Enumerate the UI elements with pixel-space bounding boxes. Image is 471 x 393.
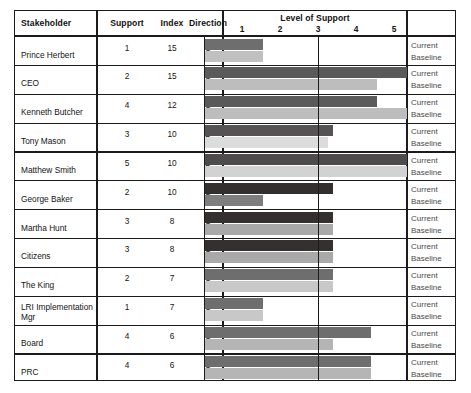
legend-label-current: Current [411, 214, 438, 223]
column-header-stakeholder: Stakeholder [21, 18, 71, 28]
cell-support: 5 [101, 158, 153, 168]
stakeholder-table: Stakeholder Support Index Direction Leve… [14, 10, 456, 381]
legend-label-current: Current [411, 329, 438, 338]
chart-header-title: Level of Support [224, 13, 406, 23]
cell-index: 15 [153, 43, 191, 53]
row-separator [15, 296, 455, 297]
legend-label-baseline: Baseline [411, 53, 442, 62]
cell-support: 2 [101, 273, 153, 283]
chart-axis-origin-line [204, 36, 205, 380]
legend-label-current: Current [411, 127, 438, 136]
row-separator [15, 65, 455, 66]
legend-label-current: Current [411, 242, 438, 251]
bar-current [204, 298, 263, 309]
bar-baseline [204, 339, 333, 350]
column-header-direction: Direction [187, 18, 229, 28]
legend-label-current: Current [411, 41, 438, 50]
legend-label-current: Current [411, 185, 438, 194]
cell-support: 2 [101, 71, 153, 81]
bar-current [204, 154, 407, 165]
cell-index: 10 [153, 158, 191, 168]
bar-current [204, 327, 371, 338]
stakeholder-name: Board [21, 339, 43, 349]
axis-tick-4: 4 [349, 24, 363, 34]
header-bottom-rule [15, 35, 455, 37]
axis-tick-3: 3 [311, 24, 325, 34]
stakeholder-name: CEO [21, 79, 39, 89]
stakeholder-name: Prince Herbert [21, 51, 75, 61]
row-separator [15, 238, 455, 239]
row-separator [15, 209, 455, 210]
bar-baseline [204, 108, 407, 119]
bar-current [204, 212, 333, 223]
chart-gridline-3 [318, 36, 319, 380]
legend-label-current: Current [411, 69, 438, 78]
bar-baseline [204, 252, 333, 263]
cell-index: 15 [153, 71, 191, 81]
cell-index: 8 [153, 244, 191, 254]
stakeholder-name: Citizens [21, 252, 51, 262]
row-separator [15, 180, 455, 181]
stakeholder-name: LRI Implementation Mgr [21, 303, 93, 322]
cell-index: 6 [153, 331, 191, 341]
cell-index: 7 [153, 273, 191, 283]
bar-baseline [204, 310, 263, 321]
cell-support: 3 [101, 129, 153, 139]
cell-support: 2 [101, 187, 153, 197]
legend-label-current: Current [411, 98, 438, 107]
stakeholder-name: George Baker [21, 195, 73, 205]
bar-current [204, 67, 407, 78]
stakeholder-name: Tony Mason [21, 137, 66, 147]
cell-support: 4 [101, 331, 153, 341]
bar-baseline [204, 79, 377, 90]
row-separator [15, 267, 455, 268]
cell-index: 12 [153, 100, 191, 110]
legend-label-baseline: Baseline [411, 312, 442, 321]
bar-baseline [204, 281, 333, 292]
legend-label-baseline: Baseline [411, 81, 442, 90]
cell-support: 1 [101, 43, 153, 53]
bar-current [204, 39, 263, 50]
legend-label-current: Current [411, 300, 438, 309]
row-separator [15, 151, 455, 152]
stakeholder-name: The King [21, 281, 54, 291]
cell-support: 1 [101, 302, 153, 312]
bar-current [204, 183, 333, 194]
cell-index: 10 [153, 187, 191, 197]
legend-label-baseline: Baseline [411, 226, 442, 235]
stakeholder-name: Martha Hunt [21, 224, 67, 234]
cell-index: 7 [153, 302, 191, 312]
cell-index: 8 [153, 216, 191, 226]
bar-baseline [204, 166, 407, 177]
column-header-index: Index [153, 18, 191, 28]
stakeholder-name: PRC [21, 368, 39, 378]
cell-support: 3 [101, 216, 153, 226]
cell-support: 3 [101, 244, 153, 254]
bar-baseline [204, 195, 263, 206]
stakeholder-name: Matthew Smith [21, 166, 76, 176]
bar-current [204, 125, 333, 136]
column-header-support: Support [101, 18, 153, 28]
axis-tick-2: 2 [273, 24, 287, 34]
bar-current [204, 240, 333, 251]
bar-baseline [204, 368, 371, 379]
bar-baseline [204, 51, 263, 62]
legend-label-baseline: Baseline [411, 110, 442, 119]
row-separator [15, 123, 455, 124]
legend-label-baseline: Baseline [411, 168, 442, 177]
bar-current [204, 96, 377, 107]
cell-support: 4 [101, 360, 153, 370]
cell-index: 6 [153, 360, 191, 370]
legend-label-baseline: Baseline [411, 283, 442, 292]
bar-baseline [204, 137, 328, 148]
legend-label-baseline: Baseline [411, 370, 442, 379]
row-separator [15, 94, 455, 95]
legend-label-baseline: Baseline [411, 341, 442, 350]
legend-label-current: Current [411, 156, 438, 165]
stakeholder-name: Kenneth Butcher [21, 108, 83, 118]
axis-tick-1: 1 [235, 24, 249, 34]
bar-current [204, 269, 333, 280]
row-separator [15, 325, 455, 326]
axis-tick-5: 5 [387, 24, 401, 34]
legend-label-baseline: Baseline [411, 254, 442, 263]
